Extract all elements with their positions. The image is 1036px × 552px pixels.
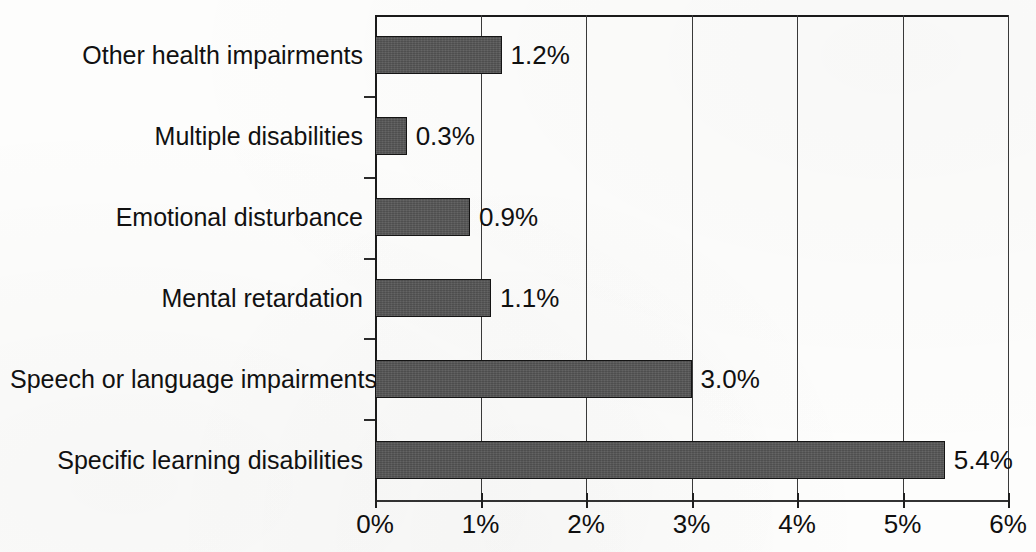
gridline-0pct	[375, 15, 377, 501]
x-tick-mark	[481, 493, 483, 508]
x-axis-tick-label: 6%	[989, 509, 1027, 540]
x-tick-mark	[375, 493, 377, 508]
bar-value-label: 1.1%	[500, 279, 559, 317]
x-tick-mark	[1008, 493, 1010, 508]
x-axis-tick-label: 0%	[356, 509, 394, 540]
x-tick-mark	[797, 493, 799, 508]
y-tick-mark	[364, 338, 375, 340]
gridline-4pct	[797, 15, 798, 501]
gridline-6pct	[1008, 15, 1009, 501]
x-tick-mark	[692, 493, 694, 508]
x-tick-mark	[586, 493, 588, 508]
gridline-5pct	[903, 15, 904, 501]
bar-value-label: 1.2%	[511, 36, 570, 74]
x-tick-mark	[903, 493, 905, 508]
bar	[375, 360, 692, 398]
bar-value-label: 0.3%	[416, 117, 475, 155]
bar-value-label: 5.4%	[954, 441, 1013, 479]
bar-value-label: 0.9%	[479, 198, 538, 236]
y-axis-category-label: Specific learning disabilities	[10, 441, 375, 479]
x-axis-tick-label: 5%	[884, 509, 922, 540]
bar	[375, 117, 407, 155]
y-axis-category-label: Speech or language impairments	[10, 360, 375, 398]
bar	[375, 279, 491, 317]
y-tick-mark	[364, 96, 375, 98]
x-axis-tick-label: 1%	[462, 509, 500, 540]
y-axis-category-label: Multiple disabilities	[10, 117, 375, 155]
bar	[375, 198, 470, 236]
y-tick-mark	[364, 177, 375, 179]
bar-chart: 0%1%2%3%4%5%6%1.2%Other health impairmen…	[0, 0, 1036, 552]
y-tick-mark	[364, 419, 375, 421]
bar	[375, 36, 502, 74]
gridline-1pct	[481, 15, 482, 501]
y-axis-category-label: Mental retardation	[10, 279, 375, 317]
y-tick-mark	[364, 258, 375, 260]
x-axis-tick-label: 4%	[778, 509, 816, 540]
bar	[375, 441, 945, 479]
x-axis-tick-label: 3%	[673, 509, 711, 540]
y-axis-category-label: Other health impairments	[10, 36, 375, 74]
gridline-3pct	[692, 15, 693, 501]
bar-value-label: 3.0%	[701, 360, 760, 398]
y-axis-category-label: Emotional disturbance	[10, 198, 375, 236]
x-axis-tick-label: 2%	[567, 509, 605, 540]
gridline-2pct	[586, 15, 587, 501]
